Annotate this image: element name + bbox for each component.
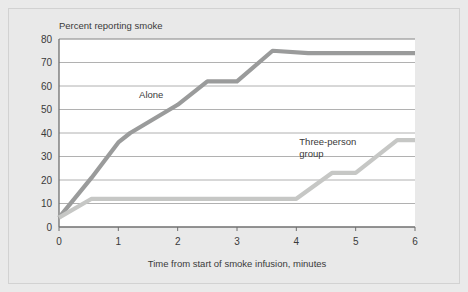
y-tick-label: 50 [41, 104, 53, 115]
x-tick-label: 6 [412, 236, 418, 247]
x-tick-label: 4 [294, 236, 300, 247]
x-tick-label: 0 [56, 236, 62, 247]
y-tick-label: 60 [41, 81, 53, 92]
figure-panel: 01020304050607080 0123456 AloneThree-per… [8, 8, 460, 284]
x-axis-title: Time from start of smoke infusion, minut… [148, 258, 327, 269]
x-tick-label: 2 [175, 236, 181, 247]
y-tick-label: 40 [41, 128, 53, 139]
y-axis-tick-labels: 01020304050607080 [41, 34, 53, 233]
series-label-alone: Alone [139, 89, 163, 100]
y-tick-label: 20 [41, 175, 53, 186]
y-tick-label: 30 [41, 151, 53, 162]
x-tick-label: 3 [234, 236, 240, 247]
y-tick-label: 70 [41, 57, 53, 68]
x-axis-tick-labels: 0123456 [56, 236, 418, 247]
series-label-three-person-group-line2: group [299, 148, 323, 159]
line-chart: 01020304050607080 0123456 AloneThree-per… [9, 9, 459, 283]
series-label-three-person-group: Three-person [299, 136, 356, 147]
y-axis-title: Percent reporting smoke [59, 20, 163, 31]
figure-container: 01020304050607080 0123456 AloneThree-per… [0, 0, 468, 292]
y-tick-label: 80 [41, 34, 53, 45]
y-tick-label: 0 [46, 222, 52, 233]
x-tick-label: 1 [116, 236, 122, 247]
x-tick-label: 5 [353, 236, 359, 247]
y-tick-label: 10 [41, 198, 53, 209]
